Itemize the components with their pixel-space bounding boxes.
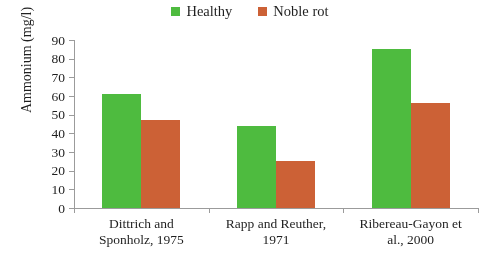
category-label-line: al., 2000 (343, 232, 478, 248)
bar-healthy (102, 94, 141, 208)
category-label-line: 1971 (209, 232, 344, 248)
y-axis-tick: 50 (69, 115, 74, 116)
y-axis-tick-label: 0 (58, 202, 65, 216)
x-axis-category-label: Ribereau-Gayon etal., 2000 (343, 216, 478, 248)
y-axis-tick: 30 (69, 152, 74, 153)
bar-noble-rot (411, 103, 450, 208)
y-axis-tick-label: 40 (52, 127, 66, 141)
y-axis-tick: 70 (69, 77, 74, 78)
y-axis-tick-label: 70 (52, 71, 66, 85)
x-axis-tick (209, 208, 210, 213)
y-axis-tick: 60 (69, 96, 74, 97)
x-axis-tick (478, 208, 479, 213)
y-axis-tick-label: 90 (52, 34, 66, 48)
x-axis-tick (343, 208, 344, 213)
x-axis-category-label: Rapp and Reuther,1971 (209, 216, 344, 248)
bar-healthy (237, 126, 276, 208)
ammonium-bar-chart: Healthy Noble rot Ammonium (mg/l) 010203… (0, 0, 500, 268)
chart-legend: Healthy Noble rot (0, 4, 500, 19)
y-axis-tick: 40 (69, 133, 74, 134)
y-axis-tick-label: 50 (52, 108, 66, 122)
y-axis-tick-label: 10 (52, 183, 66, 197)
square-swatch-icon (258, 7, 267, 16)
category-label-line: Dittrich and (74, 216, 209, 232)
x-axis-line (74, 208, 478, 209)
legend-entry-healthy: Healthy (171, 4, 232, 19)
y-axis-tick-label: 80 (52, 52, 66, 66)
y-axis-tick: 10 (69, 189, 74, 190)
x-axis-tick (74, 208, 75, 213)
category-label-line: Ribereau-Gayon et (343, 216, 478, 232)
y-axis-tick-label: 30 (52, 146, 66, 160)
bar-noble-rot (141, 120, 180, 208)
legend-label-healthy: Healthy (186, 4, 232, 19)
legend-entry-noble-rot: Noble rot (258, 4, 328, 19)
y-axis-title: Ammonium (mg/l) (19, 0, 35, 145)
y-axis-tick-label: 60 (52, 90, 66, 104)
category-label-line: Rapp and Reuther, (209, 216, 344, 232)
square-swatch-icon (171, 7, 180, 16)
legend-label-noble-rot: Noble rot (273, 4, 328, 19)
category-label-line: Sponholz, 1975 (74, 232, 209, 248)
y-axis-tick: 80 (69, 59, 74, 60)
y-axis-tick-label: 20 (52, 164, 66, 178)
y-axis-line (74, 40, 75, 209)
bar-noble-rot (276, 161, 315, 208)
bar-healthy (372, 49, 411, 208)
y-axis-tick: 20 (69, 171, 74, 172)
y-axis-tick: 90 (69, 40, 74, 41)
x-axis-category-label: Dittrich andSponholz, 1975 (74, 216, 209, 248)
plot-area: 0102030405060708090 Dittrich andSponholz… (74, 40, 478, 208)
